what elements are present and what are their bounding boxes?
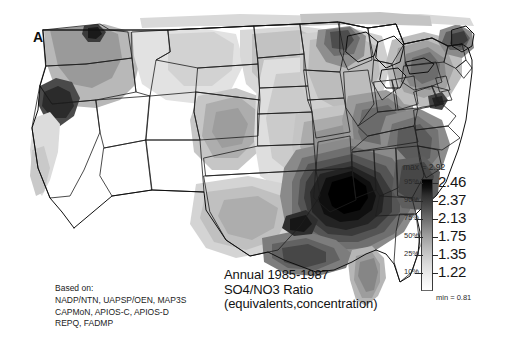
sources-line-3: REPQ, FADMP bbox=[55, 318, 186, 330]
sources-heading: Based on: bbox=[55, 283, 186, 295]
title-line-period: Annual 1985-1987 bbox=[224, 268, 377, 283]
sources-block: Based on: NADP/NTN, UAPSP/OEN, MAP3S CAP… bbox=[55, 283, 186, 330]
legend-value-10: 1.22 bbox=[438, 264, 466, 279]
legend-value-50: 1.75 bbox=[438, 228, 466, 243]
legend-min-label: min = 0.81 bbox=[436, 294, 471, 302]
legend-value-75: 2.13 bbox=[438, 210, 466, 225]
legend-max-label: max = 2.92 bbox=[403, 163, 445, 172]
title-line-variable: SO4/NO3 Ratio bbox=[224, 283, 377, 298]
legend-percentile-95: 95% bbox=[404, 178, 419, 186]
title-line-units: (equivalents,concentration) bbox=[224, 297, 377, 312]
legend-percentile-50: 50% bbox=[404, 232, 419, 240]
legend-percentile-10: 10% bbox=[404, 268, 419, 276]
sources-line-2: CAPMoN, APIOS-C, APIOS-D bbox=[55, 307, 186, 319]
sources-line-1: NADP/NTN, UAPSP/OEN, MAP3S bbox=[55, 295, 186, 307]
legend-percentile-75: 75% bbox=[404, 214, 419, 222]
legend-percentile-90: 90% bbox=[404, 196, 419, 204]
legend-percentile-25: 25% bbox=[404, 250, 419, 258]
legend-value-25: 1.35 bbox=[438, 246, 466, 261]
panel-label: A bbox=[33, 30, 43, 44]
title-block: Annual 1985-1987 SO4/NO3 Ratio (equivale… bbox=[224, 268, 377, 312]
figure-panel-a: A max = 2.92 95% 2.46 90% 2.37 75% 2.13 bbox=[0, 0, 507, 346]
legend-value-95: 2.46 bbox=[438, 174, 466, 189]
legend-value-90: 2.37 bbox=[438, 192, 466, 207]
legend: max = 2.92 95% 2.46 90% 2.37 75% 2.13 50 bbox=[391, 163, 507, 303]
legend-colorbar bbox=[421, 179, 433, 291]
